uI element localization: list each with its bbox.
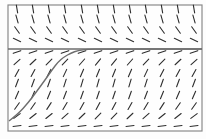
plot-frame [8, 5, 202, 131]
slope-field-diagram [0, 0, 206, 139]
slope-field-canvas [0, 0, 206, 139]
